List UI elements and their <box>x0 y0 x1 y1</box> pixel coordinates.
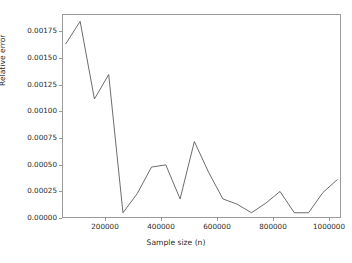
ytick-label: 0.00025 <box>19 187 57 194</box>
xtick-mark <box>329 218 330 221</box>
ytick-label: 0.00150 <box>19 54 57 61</box>
chart-figure: 0.00175 0.00150 0.00125 0.00100 0.00075 … <box>0 0 352 263</box>
ytick-mark <box>59 31 62 32</box>
ytick-label: 0.00175 <box>19 27 57 34</box>
xtick-label: 200000 <box>85 223 125 230</box>
ytick-mark <box>59 165 62 166</box>
xtick-label: 600000 <box>197 223 237 230</box>
xtick-label: 800000 <box>253 223 293 230</box>
line-plot <box>63 15 340 217</box>
xtick-label: 400000 <box>141 223 181 230</box>
ytick-label: 0.00050 <box>19 161 57 168</box>
ytick-label: 0.00000 <box>19 214 57 221</box>
ytick-label: 0.00125 <box>19 81 57 88</box>
ytick-mark <box>59 138 62 139</box>
ytick-mark <box>59 85 62 86</box>
ytick-mark <box>59 111 62 112</box>
xtick-mark <box>273 218 274 221</box>
xtick-mark <box>161 218 162 221</box>
ytick-mark <box>59 218 62 219</box>
ytick-mark <box>59 58 62 59</box>
ytick-label: 0.00100 <box>19 107 57 114</box>
y-axis-label: Relative error <box>0 35 7 86</box>
x-axis-label: Sample size (n) <box>0 239 352 247</box>
data-series-line <box>66 21 337 212</box>
ytick-label: 0.00075 <box>19 134 57 141</box>
xtick-mark <box>105 218 106 221</box>
ytick-mark <box>59 191 62 192</box>
xtick-label: 1000000 <box>307 223 351 230</box>
xtick-mark <box>217 218 218 221</box>
plot-axes <box>62 14 341 218</box>
